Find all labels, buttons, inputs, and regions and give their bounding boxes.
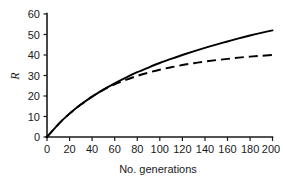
x-tick-label-40: 40 — [86, 143, 98, 155]
x-tick-label-0: 0 — [44, 143, 50, 155]
x-tick-label-160: 160 — [218, 143, 236, 155]
x-tick-label-180: 180 — [241, 143, 259, 155]
x-tick-label-200: 200 — [262, 143, 280, 155]
x-tick-label-20: 20 — [63, 143, 75, 155]
y-tick-label-0: 0 — [34, 131, 40, 143]
y-tick-label-50: 50 — [28, 29, 40, 41]
x-tick-label-140: 140 — [196, 143, 214, 155]
y-tick-label-40: 40 — [28, 49, 40, 61]
y-tick-label-60: 60 — [28, 8, 40, 20]
series-dashed-line — [47, 55, 273, 137]
x-tick-label-60: 60 — [109, 143, 121, 155]
chart-figure: 0 10 20 30 40 50 60 0 20 40 60 80 100 12… — [0, 0, 283, 181]
x-tick-label-80: 80 — [131, 143, 143, 155]
series-solid-line — [47, 30, 273, 137]
x-tick-label-120: 120 — [173, 143, 191, 155]
line-chart: 0 10 20 30 40 50 60 0 20 40 60 80 100 12… — [0, 0, 283, 181]
y-tick-label-20: 20 — [28, 90, 40, 102]
x-axis-title: No. generations — [119, 163, 197, 175]
y-tick-labels: 0 10 20 30 40 50 60 — [28, 8, 40, 143]
y-axis-title: R — [8, 72, 22, 81]
x-tick-labels: 0 20 40 60 80 100 120 140 160 180 200 — [44, 143, 280, 155]
x-tick-label-100: 100 — [151, 143, 169, 155]
y-tick-label-10: 10 — [28, 111, 40, 123]
y-tick-label-30: 30 — [28, 70, 40, 82]
